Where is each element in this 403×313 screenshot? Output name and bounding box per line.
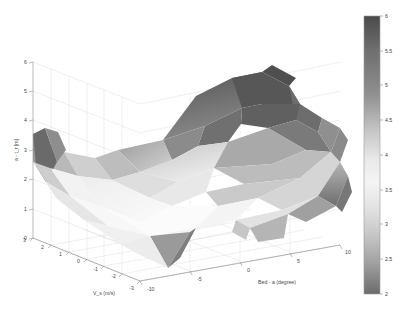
z-axis: 6 5 4 3 2 1 0 a - t_r [m] [13,59,33,241]
colorbar-tick-label: 4 [385,152,388,158]
colorbar-tick-label: 5 [385,82,388,88]
z-tick-label: 6 [24,59,27,65]
x-tick-label: 10 [345,249,351,255]
y-tick-label: -2 [111,273,116,279]
colorbar-tick-label: 3 [385,221,388,227]
plot-canvas: 6 5 4 3 2 1 0 a - t_r [m] 3 2 1 0 -1 -2 … [0,0,403,313]
z-axis-label: a - t_r [m] [13,138,19,161]
y-axis-label: V_s (m/s) [93,290,115,296]
colorbar-tick-label: 4.5 [385,117,392,123]
colorbar-tick-label: 2 [385,291,388,297]
y-tick-label: 1 [59,251,62,257]
colorbar-tick-label: 5.5 [385,48,392,54]
x-axis-label: Bed - a (degree) [258,279,296,285]
colorbar-ticks: 6 5.5 5 4.5 4 3.5 3 2.5 2 [380,13,392,297]
colorbar-tick-label: 3.5 [385,187,392,193]
colorbar[interactable]: 6 5.5 5 4.5 4 3.5 3 2.5 2 [364,13,392,297]
colorbar-tick-label: 2.5 [385,256,392,262]
z-axis-ticks: 6 5 4 3 2 1 0 [24,59,33,241]
y-tick-label: 2 [41,244,44,250]
x-tick-label: 5 [297,258,300,264]
z-tick-label: 1 [24,206,27,212]
figure-3d-surface-plot: 6 5 4 3 2 1 0 a - t_r [m] 3 2 1 0 -1 -2 … [0,0,403,313]
x-tick-label: -5 [197,276,202,282]
colorbar-tick-label: 6 [385,13,388,19]
y-tick-label: 0 [77,258,80,264]
z-tick-label: 4 [24,117,27,123]
y-tick-label: 3 [23,237,26,243]
z-tick-label: 3 [24,147,27,153]
z-tick-label: 5 [24,88,27,94]
z-tick-label: 2 [24,176,27,182]
x-tick-label: -10 [147,286,155,292]
y-tick-label: -1 [93,266,98,272]
x-tick-label: 0 [247,267,250,273]
y-tick-label: -3 [129,285,134,291]
